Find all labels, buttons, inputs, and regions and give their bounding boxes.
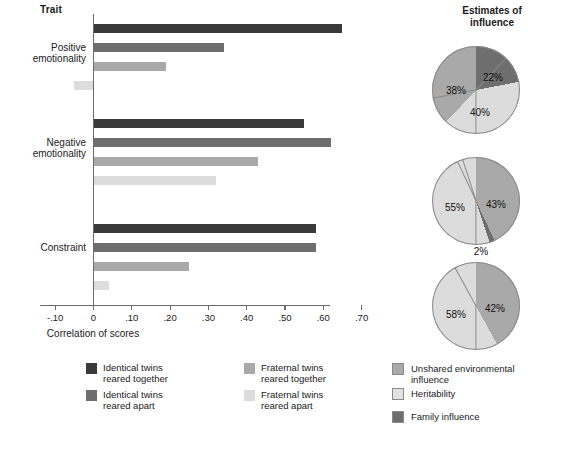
bar bbox=[94, 62, 167, 71]
pie-legend-label: Heritability bbox=[411, 388, 455, 399]
legend-swatch-icon bbox=[244, 363, 255, 374]
x-tick-label: .10 bbox=[125, 312, 138, 323]
trait-axis-header: Trait bbox=[40, 4, 62, 15]
legend-label: Fraternal twins reared together bbox=[261, 362, 326, 384]
bar bbox=[94, 138, 331, 147]
legend-swatch-icon bbox=[86, 390, 97, 401]
legend-item: Identical twins reared together bbox=[86, 362, 168, 384]
legend-item: Fraternal twins reared apart bbox=[244, 389, 323, 411]
x-tick-label: 0 bbox=[91, 312, 96, 323]
pie-slice-label: 42% bbox=[485, 303, 505, 314]
pie-slice-label: 58% bbox=[446, 309, 466, 320]
group-label: Negative emotionality bbox=[0, 137, 86, 160]
bar bbox=[94, 119, 305, 128]
legend-swatch-icon bbox=[392, 411, 404, 423]
x-tick-mark bbox=[170, 305, 171, 310]
legend-label: Fraternal twins reared apart bbox=[261, 389, 323, 411]
legend-label: Identical twins reared together bbox=[103, 362, 168, 384]
legend-swatch-icon bbox=[392, 388, 404, 400]
x-tick-mark bbox=[55, 305, 56, 310]
bar bbox=[94, 224, 316, 233]
pie-panel-title: Estimates of influence bbox=[370, 5, 578, 29]
pie-slice-divider bbox=[454, 267, 476, 306]
pie-slice-divider bbox=[475, 201, 476, 245]
pie-slice-label: 55% bbox=[445, 202, 465, 213]
x-tick-label: .20 bbox=[163, 312, 176, 323]
legend-item: Identical twins reared apart bbox=[86, 389, 163, 411]
x-tick-mark bbox=[208, 305, 209, 310]
x-tick-mark bbox=[131, 305, 132, 310]
pie-slice-label: 40% bbox=[470, 107, 490, 118]
bar bbox=[94, 262, 190, 271]
x-tick-label: .30 bbox=[202, 312, 215, 323]
bar bbox=[94, 243, 316, 252]
x-tick-label: -.10 bbox=[47, 312, 63, 323]
x-tick-label: .40 bbox=[240, 312, 253, 323]
bar bbox=[94, 43, 224, 52]
legend-item: Fraternal twins reared together bbox=[244, 362, 326, 384]
group-label-wrap: Positive emotionality bbox=[0, 42, 88, 65]
x-tick-mark bbox=[361, 305, 362, 310]
legend-swatch-icon bbox=[392, 363, 404, 375]
x-tick-mark bbox=[284, 305, 285, 310]
x-tick-mark bbox=[246, 305, 247, 310]
x-tick-mark bbox=[93, 305, 94, 310]
x-tick-label: .70 bbox=[355, 312, 368, 323]
pie-legend-label: Family influence bbox=[411, 411, 480, 422]
pie-chart bbox=[432, 262, 520, 350]
bar bbox=[94, 176, 217, 185]
legend-label: Identical twins reared apart bbox=[103, 389, 163, 411]
group-label-wrap: Constraint bbox=[0, 242, 88, 254]
pie-slice-label: 2% bbox=[474, 246, 488, 257]
pie-slice-label: 43% bbox=[486, 199, 506, 210]
pie-slice-divider bbox=[462, 159, 477, 201]
pie-legend-item: Heritability bbox=[392, 388, 455, 400]
x-tick-label: .50 bbox=[278, 312, 291, 323]
pie-legend-item: Unshared environmental influence bbox=[392, 363, 515, 385]
bar bbox=[94, 281, 109, 290]
group-label: Positive emotionality bbox=[0, 42, 86, 65]
pie-legend-item: Family influence bbox=[392, 411, 480, 423]
x-axis-line bbox=[40, 305, 330, 306]
group-label-wrap: Negative emotionality bbox=[0, 137, 88, 160]
x-axis-title: Correlation of scores bbox=[47, 328, 139, 339]
pie-slice-label: 22% bbox=[483, 72, 503, 83]
pie-slice-label: 38% bbox=[446, 85, 466, 96]
group-label: Constraint bbox=[0, 242, 86, 254]
figure-root: Trait -.100.10.20.30.40.50.60.70 Correla… bbox=[0, 0, 578, 451]
x-tick-label: .60 bbox=[317, 312, 330, 323]
x-tick-mark bbox=[323, 305, 324, 310]
pie-charts-panel: Estimates of influence 22%40%38%43%2%55%… bbox=[370, 0, 578, 451]
bar-chart-panel: Trait -.100.10.20.30.40.50.60.70 Correla… bbox=[0, 0, 370, 451]
legend-swatch-icon bbox=[244, 390, 255, 401]
bar bbox=[94, 24, 343, 33]
bar bbox=[94, 157, 259, 166]
bar bbox=[74, 81, 93, 90]
pie-slice-divider bbox=[475, 306, 476, 350]
legend-swatch-icon bbox=[86, 363, 97, 374]
pie-legend-label: Unshared environmental influence bbox=[411, 363, 515, 385]
